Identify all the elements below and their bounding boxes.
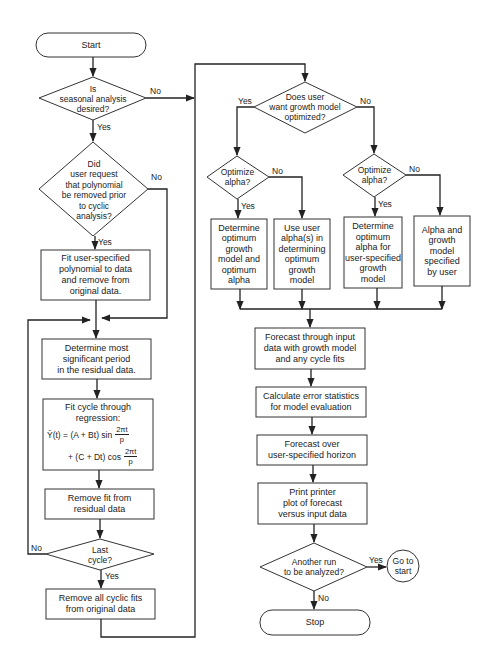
edge-label-seasonal-yes: Yes — [97, 122, 111, 132]
edge-label-poly-yes: Yes — [98, 237, 112, 247]
formula-num-1: 2πt — [115, 425, 128, 435]
go-to-start-label: Go to start — [387, 552, 419, 580]
use-user-alpha-label: Use user alpha(s) in determining optimum… — [274, 219, 330, 289]
opt-alpha-right-label: Optimize alpha? — [347, 164, 402, 186]
seasonal-label: Is seasonal analysis desired? — [49, 80, 137, 118]
remove-all-label: Remove all cyclic fits from original dat… — [46, 589, 155, 619]
edge-label-last-yes: Yes — [105, 571, 119, 581]
fit-cycle-label: Fit cycle through regression: — [43, 402, 153, 424]
edge-label-another-yes: Yes — [369, 555, 383, 565]
another-run-label: Another run to be analyzed? — [272, 555, 356, 579]
formula-den-2: p — [129, 457, 133, 466]
poly-request-label: Did user request that polynomial be remo… — [53, 150, 135, 230]
formula-fraction-2: 2πt p — [124, 447, 137, 466]
start-label: Start — [36, 33, 146, 57]
opt-alpha-left-label: Optimize alpha? — [210, 166, 265, 188]
edge-label-growth-yes: Yes — [238, 96, 252, 106]
forecast-input-label: Forecast through input data with growth … — [255, 328, 365, 369]
edge-label-alpha-right-yes: Yes — [378, 199, 392, 209]
formula-line2: + (C + Dt) cos — [68, 452, 121, 462]
edge-label-seasonal-no: No — [150, 86, 161, 96]
last-cycle-label: Last cycle? — [70, 543, 130, 567]
determine-period-label: Determine most significant period in the… — [42, 339, 151, 379]
edge-label-growth-no: No — [360, 96, 371, 106]
calc-error-label: Calculate error statistics for model eva… — [256, 387, 366, 417]
det-opt-both-label: Determine optimum growth model and optim… — [211, 219, 267, 289]
edge-label-another-no: No — [318, 593, 329, 603]
edge-label-alpha-left-yes: Yes — [241, 201, 255, 211]
formula-den-1: p — [120, 435, 124, 444]
formula-fraction-1: 2πt p — [115, 425, 128, 444]
formula-num-2: 2πt — [124, 447, 137, 457]
formula-line1: Ȳ(t) = (A + Bt) sin — [47, 430, 112, 440]
fit-poly-label: Fit user-specified polynomial to data an… — [41, 250, 150, 300]
det-opt-alpha-label: Determine optimum alpha for user-specifi… — [344, 217, 402, 288]
edge-label-last-no: No — [31, 543, 42, 553]
growth-opt-label: Does user want growth model optimized? — [262, 91, 348, 123]
forecast-horizon-label: Forecast over user-specified horizon — [257, 435, 367, 465]
user-specified-label: Alpha and growth model specified by user — [414, 216, 470, 286]
remove-fit-label: Remove fit from residual data — [45, 489, 154, 519]
edge-label-alpha-right-no: No — [409, 164, 420, 174]
print-plot-label: Print printer plot of forecast versus in… — [258, 483, 367, 524]
edge-label-alpha-left-no: No — [272, 166, 283, 176]
stop-label: Stop — [260, 610, 370, 635]
edge-label-poly-no: No — [151, 172, 162, 182]
